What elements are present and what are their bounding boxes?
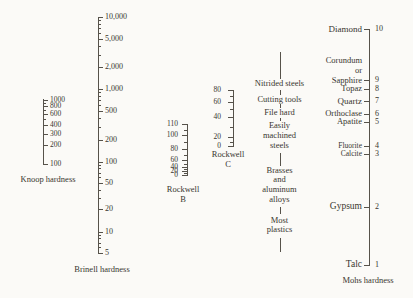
mohs-mineral-name: or <box>0 66 362 76</box>
brinell-tick <box>98 17 103 18</box>
brinell-tick <box>98 190 101 191</box>
mohs-tick-label: 2 <box>375 203 379 211</box>
brinell-tick <box>98 253 103 254</box>
rockwell-b-tick <box>182 160 188 161</box>
material-annotation-line: File hard <box>220 108 340 118</box>
brinell-tick-label: 10,000 <box>105 13 127 21</box>
brinell-tick <box>98 183 103 184</box>
material-annotation-line: alloys <box>220 195 340 205</box>
brinell-tick <box>98 232 103 233</box>
rockwell-b-tick <box>184 130 188 131</box>
annotation-connector-line <box>280 52 281 79</box>
mohs-scale-title: Mohs hardness <box>342 274 393 284</box>
rockwell-b-tick <box>182 171 188 172</box>
mohs-tick <box>364 265 371 266</box>
annotation-connector-line <box>280 238 281 252</box>
mohs-mineral-label: Talc <box>0 259 362 270</box>
mohs-tick-label: 7 <box>375 97 379 105</box>
material-annotation-line: Nitrided steels <box>220 79 340 89</box>
brinell-tick-label: 5 <box>105 249 109 257</box>
mohs-scale-title-line: Mohs hardness <box>342 274 393 284</box>
material-annotation-line: steels <box>220 141 340 151</box>
mohs-tick <box>364 89 371 90</box>
mohs-tick <box>364 154 371 155</box>
rockwell-b-tick <box>184 164 188 165</box>
material-annotation: Nitrided steels <box>220 79 340 89</box>
brinell-tick <box>98 39 103 40</box>
annotation-connector-line <box>280 207 281 214</box>
hardness-scales-comparison-figure: 1000800600400300200100Knoop hardness10,0… <box>0 0 413 298</box>
material-annotation-line: plastics <box>220 226 340 236</box>
mohs-tick <box>364 29 371 30</box>
mohs-tick <box>364 146 371 147</box>
mohs-mineral-name: Talc <box>0 259 362 270</box>
rockwell-b-tick <box>182 175 188 176</box>
mohs-mineral-name: Calcite <box>0 150 362 159</box>
mohs-mineral-name: Corundum <box>0 56 362 66</box>
brinell-tick <box>98 235 101 236</box>
material-annotation: Brassesandaluminumalloys <box>220 166 340 206</box>
brinell-tick-label: 5,000 <box>105 35 123 43</box>
mohs-tick-label: 10 <box>375 25 383 33</box>
mohs-tick <box>364 207 371 208</box>
material-annotation: Mostplastics <box>220 216 340 236</box>
mohs-tick <box>364 80 371 81</box>
mohs-tick-label: 5 <box>375 118 379 126</box>
mohs-mineral-label: Calcite <box>0 150 362 159</box>
rockwell-b-tick <box>184 173 188 174</box>
mohs-tick-label: 8 <box>375 85 379 93</box>
mohs-mineral-name: Diamond <box>0 23 362 34</box>
mohs-tick-label: 1 <box>375 261 379 269</box>
mohs-tick <box>364 114 371 115</box>
brinell-tick-label: 10 <box>105 228 113 236</box>
rockwell-b-tick <box>184 169 188 170</box>
material-annotation: File hard <box>220 108 340 118</box>
brinell-tick <box>98 238 101 239</box>
brinell-tick <box>98 20 101 21</box>
brinell-tick <box>98 198 101 199</box>
mohs-tick <box>364 101 371 102</box>
mohs-tick <box>364 122 371 123</box>
rockwell-b-tick <box>182 167 188 168</box>
brinell-tick-label: 50 <box>105 179 113 187</box>
mohs-mineral-label: Diamond <box>0 23 362 34</box>
brinell-tick <box>98 247 101 248</box>
brinell-tick <box>98 243 101 244</box>
rockwell-c-tick-label: 20 <box>0 133 221 141</box>
rockwell-b-tick-label: 0 <box>0 172 178 180</box>
material-annotation: Cutting tools <box>220 95 340 105</box>
annotation-connector-line <box>280 153 281 166</box>
mohs-tick-label: 3 <box>375 150 379 158</box>
rockwell-b-scale-title-line: Rockwell <box>167 184 200 194</box>
material-annotation: Easilymachinedsteels <box>220 121 340 151</box>
brinell-tick <box>98 46 101 47</box>
material-annotation-line: Cutting tools <box>220 95 340 105</box>
knoop-tick <box>43 106 48 107</box>
mohs-axis-line <box>369 29 370 265</box>
